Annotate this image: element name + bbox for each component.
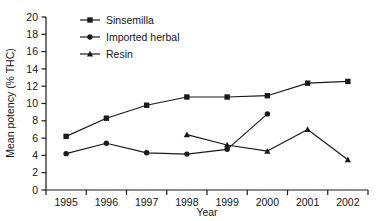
y-tick-label: 6 [32, 132, 38, 144]
square-marker-icon [305, 80, 310, 85]
x-tick-label: 1997 [135, 196, 159, 208]
circle-marker-icon [63, 151, 68, 156]
circle-marker-icon [87, 34, 92, 39]
circle-marker-icon [104, 141, 109, 146]
line-chart-svg: 02468101214161820 1995199619971998199920… [0, 0, 378, 221]
y-tick-label: 10 [26, 97, 38, 109]
circle-marker-icon [265, 111, 270, 116]
chart-figure: 02468101214161820 1995199619971998199920… [0, 0, 378, 221]
x-tick-label: 2002 [336, 196, 360, 208]
y-tick-label: 12 [26, 80, 38, 92]
square-marker-icon [345, 79, 350, 84]
circle-marker-icon [144, 150, 149, 155]
square-marker-icon [63, 134, 68, 139]
square-marker-icon [104, 116, 109, 121]
circle-marker-icon [184, 151, 189, 156]
legend-label: Resin [106, 48, 133, 60]
x-tick-label: 1995 [54, 196, 78, 208]
x-tick-label: 2000 [256, 196, 280, 208]
x-tick-label: 2001 [296, 196, 320, 208]
y-tick-label: 14 [26, 63, 38, 75]
square-marker-icon [224, 94, 229, 99]
legend-label: Sinsemilla [106, 14, 154, 26]
y-tick-label: 0 [32, 184, 38, 196]
y-tick-label: 20 [26, 11, 38, 23]
square-marker-icon [265, 93, 270, 98]
x-tick-label: 1998 [175, 196, 199, 208]
square-marker-icon [144, 103, 149, 108]
y-axis-title: Mean potency (% THC) [4, 48, 16, 158]
square-marker-icon [87, 17, 92, 22]
square-marker-icon [184, 94, 189, 99]
x-tick-label: 1996 [95, 196, 119, 208]
y-tick-label: 4 [32, 149, 38, 161]
y-tick-label: 2 [32, 166, 38, 178]
x-tick-label: 1999 [215, 196, 239, 208]
chart-background [0, 0, 378, 221]
y-tick-label: 16 [26, 45, 38, 57]
y-tick-label: 18 [26, 28, 38, 40]
x-axis-title: Year [196, 206, 218, 218]
y-tick-label: 8 [32, 114, 38, 126]
legend-label: Imported herbal [106, 31, 180, 43]
